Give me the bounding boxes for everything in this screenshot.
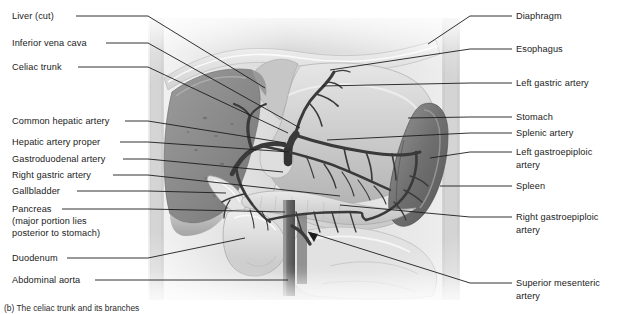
label-celiac-trunk: Celiac trunk — [12, 62, 62, 73]
label-splenic-artery: Splenic artery — [516, 128, 573, 139]
label-left-gastroepiploic-artery: Left gastroepiploic — [516, 147, 592, 158]
label-pancreas-note-2: posterior to stomach) — [12, 228, 100, 239]
label-liver-cut: Liver (cut) — [12, 11, 54, 22]
label-right-gastric-artery: Right gastric artery — [12, 170, 91, 181]
label-diaphragm: Diaphragm — [516, 11, 562, 22]
label-pancreas: Pancreas — [12, 204, 52, 215]
label-gallbladder: Gallbladder — [12, 186, 60, 197]
label-stomach: Stomach — [516, 112, 553, 123]
label-spleen: Spleen — [516, 181, 545, 192]
label-right-gastroepiploic-artery: Right gastroepiploic — [516, 212, 599, 223]
label-gastroduodenal-artery: Gastroduodenal artery — [12, 154, 105, 165]
label-common-hepatic-artery: Common hepatic artery — [12, 116, 109, 127]
label-hepatic-artery-proper: Hepatic artery proper — [12, 137, 100, 148]
figure-caption: (b) The celiac trunk and its branches — [4, 303, 139, 313]
label-pancreas-note-1: (major portion lies — [12, 216, 87, 227]
label-superior-mesenteric-artery: Superior mesenteric — [516, 278, 600, 289]
anatomy-figure: Liver (cut) Inferior vena cava Celiac tr… — [0, 0, 617, 314]
label-left-gastric-artery: Left gastric artery — [516, 78, 589, 89]
label-left-gastroepiploic-cont: artery — [516, 160, 540, 171]
label-esophagus: Esophagus — [516, 44, 563, 55]
label-right-gastroepiploic-cont: artery — [516, 225, 540, 236]
label-duodenum: Duodenum — [12, 253, 58, 264]
label-inferior-vena-cava: Inferior vena cava — [12, 38, 87, 49]
label-superior-mesenteric-cont: artery — [516, 291, 540, 302]
label-abdominal-aorta: Abdominal aorta — [12, 275, 80, 286]
